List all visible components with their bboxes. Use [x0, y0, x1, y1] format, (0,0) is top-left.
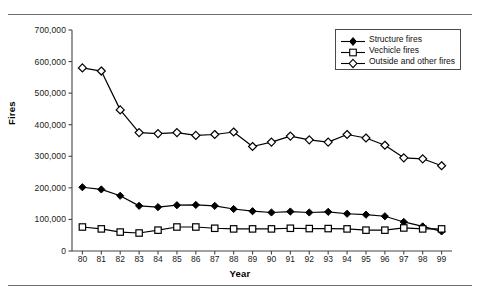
data-point-marker [438, 162, 446, 170]
data-point-marker [117, 192, 124, 199]
data-point-marker [306, 225, 312, 231]
x-tick-label: 80 [78, 254, 87, 264]
x-axis-tick-labels: 8081828384858687888990919293949596979899 [0, 254, 480, 268]
series-line [82, 187, 441, 231]
y-tick-label: 200,000 [35, 183, 66, 193]
legend-label: Structure fires [366, 34, 422, 44]
chart-figure: 0100,000200,000300,000400,000500,000600,… [0, 0, 480, 298]
data-point-marker [78, 64, 86, 72]
data-point-marker [154, 130, 162, 138]
data-point-marker [268, 226, 274, 232]
data-point-marker [193, 224, 199, 230]
x-tick-label: 86 [191, 254, 200, 264]
x-tick-label: 95 [361, 254, 370, 264]
data-point-marker [192, 201, 199, 208]
series-markers [78, 64, 445, 236]
data-point-marker [362, 134, 370, 142]
data-point-marker [249, 208, 256, 215]
data-point-marker [343, 210, 350, 217]
legend-label: Vechicle fires [366, 45, 419, 55]
x-tick-label: 92 [305, 254, 314, 264]
filled-diamond-icon [340, 33, 366, 44]
open-diamond-icon [340, 55, 366, 66]
data-point-marker [268, 209, 275, 216]
data-point-marker [381, 141, 389, 149]
data-point-marker [230, 205, 237, 212]
x-axis-title: Year [0, 268, 480, 279]
data-point-marker [438, 226, 444, 232]
data-point-marker [173, 202, 180, 209]
data-point-marker [136, 230, 142, 236]
x-tick-label: 96 [380, 254, 389, 264]
data-point-marker [155, 227, 161, 233]
x-tick-label: 98 [418, 254, 427, 264]
data-point-marker [382, 227, 388, 233]
data-point-marker [344, 226, 350, 232]
y-tick-label: 600,000 [35, 57, 66, 67]
y-tick-label: 100,000 [35, 214, 66, 224]
data-point-marker [363, 227, 369, 233]
x-tick-label: 91 [286, 254, 295, 264]
data-point-marker [419, 226, 425, 232]
x-tick-label: 88 [229, 254, 238, 264]
x-tick-label: 93 [323, 254, 332, 264]
data-point-marker [305, 136, 313, 144]
legend-label: Outside and other fires [366, 56, 455, 66]
x-tick-label: 99 [437, 254, 446, 264]
legend-item-vehicle-fires: Vechicle fires [340, 44, 455, 55]
data-point-marker [419, 155, 427, 163]
data-point-marker [381, 213, 388, 220]
data-point-marker [98, 186, 105, 193]
y-tick-label: 400,000 [35, 120, 66, 130]
data-point-marker [212, 225, 218, 231]
data-point-marker [286, 132, 294, 140]
x-tick-label: 89 [248, 254, 257, 264]
data-point-marker [192, 131, 200, 139]
x-tick-label: 87 [210, 254, 219, 264]
data-point-marker [267, 138, 275, 146]
x-tick-label: 90 [267, 254, 276, 264]
x-tick-label: 83 [134, 254, 143, 264]
x-tick-label: 85 [172, 254, 181, 264]
series-lines [82, 68, 441, 233]
data-point-marker [211, 202, 218, 209]
data-point-marker [211, 131, 219, 139]
data-point-marker [325, 225, 331, 231]
data-point-marker [343, 131, 351, 139]
data-point-marker [230, 226, 236, 232]
data-point-marker [325, 208, 332, 215]
data-point-marker [401, 225, 407, 231]
data-point-marker [79, 184, 86, 191]
open-square-icon [340, 44, 366, 55]
data-point-marker [306, 209, 313, 216]
data-point-marker [287, 225, 293, 231]
x-tick-label: 97 [399, 254, 408, 264]
x-tick-label: 94 [342, 254, 351, 264]
legend-item-structure-fires: Structure fires [340, 33, 455, 44]
data-point-marker [117, 229, 123, 235]
data-point-marker [97, 67, 105, 75]
legend-item-outside-and-other-fires: Outside and other fires [340, 55, 455, 66]
data-point-marker [154, 204, 161, 211]
data-point-marker [287, 208, 294, 215]
data-point-marker [362, 211, 369, 218]
chart-legend: Structure fires Vechicle fires Outside a… [335, 29, 461, 70]
data-point-marker [98, 226, 104, 232]
y-tick-label: 300,000 [35, 151, 66, 161]
y-tick-label: 700,000 [35, 25, 66, 35]
data-point-marker [79, 224, 85, 230]
data-point-marker [173, 129, 181, 137]
x-tick-label: 81 [97, 254, 106, 264]
data-point-marker [324, 138, 332, 146]
x-tick-label: 84 [153, 254, 162, 264]
series-line [82, 68, 441, 166]
y-axis-title: Fires [6, 101, 17, 125]
x-tick-label: 82 [115, 254, 124, 264]
data-point-marker [400, 154, 408, 162]
y-tick-label: 500,000 [35, 88, 66, 98]
data-point-marker [136, 202, 143, 209]
data-point-marker [174, 224, 180, 230]
data-point-marker [249, 226, 255, 232]
